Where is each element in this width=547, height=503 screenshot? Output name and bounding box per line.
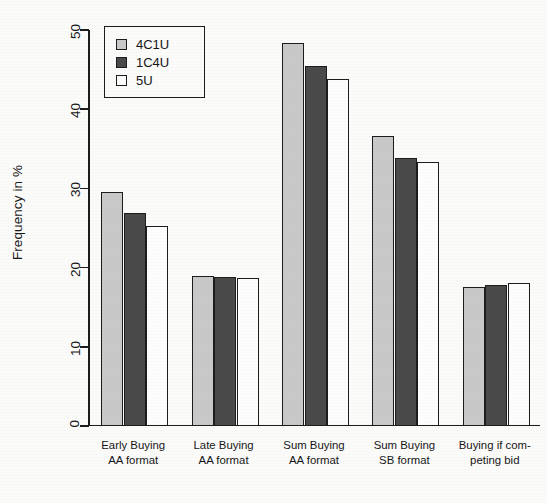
x-axis-category-label: Sum Buying SB format	[359, 438, 449, 467]
x-axis-category-label: Late Buying AA format	[178, 438, 268, 467]
bar	[282, 43, 304, 426]
legend-item: 5U	[116, 72, 153, 88]
bar	[305, 66, 327, 426]
y-axis-tick-label: 50	[68, 30, 83, 45]
legend: 4C1U1C4U5U	[104, 26, 205, 98]
bar-group	[282, 30, 348, 426]
bar-group	[372, 30, 438, 426]
bar	[372, 136, 394, 426]
dark-gray-swatch	[116, 57, 127, 68]
x-axis-category-label: Sum Buying AA format	[269, 438, 359, 467]
legend-label: 4C1U	[136, 37, 169, 52]
bar	[508, 283, 530, 426]
x-axis-category-label: Early Buying AA format	[88, 438, 178, 467]
bar	[146, 226, 168, 426]
legend-label: 1C4U	[136, 55, 169, 70]
bar	[417, 162, 439, 426]
bar	[214, 277, 236, 426]
bar	[395, 158, 417, 426]
y-axis-tick-label: 10	[68, 347, 83, 362]
bar	[237, 278, 259, 426]
y-axis-tick-label: 40	[68, 109, 83, 124]
bar-group	[463, 30, 529, 426]
bar	[124, 213, 146, 426]
bar	[327, 79, 349, 426]
bar	[192, 276, 214, 426]
y-axis-tick-label: 0	[68, 426, 83, 434]
bar	[101, 192, 123, 426]
x-axis-category-label: Buying if com- peting bid	[450, 438, 540, 467]
legend-item: 1C4U	[116, 54, 169, 70]
bar-chart: Frequency in % 01020304050 Early Buying …	[0, 0, 547, 503]
light-gray-swatch	[116, 39, 127, 50]
bar	[463, 287, 485, 426]
y-axis-tick-label: 20	[68, 268, 83, 283]
legend-label: 5U	[136, 73, 153, 88]
legend-item: 4C1U	[116, 36, 169, 52]
white-swatch	[116, 75, 127, 86]
y-axis-title: Frequency in %	[10, 133, 25, 293]
y-axis-tick-label: 30	[68, 188, 83, 203]
bar	[485, 285, 507, 426]
